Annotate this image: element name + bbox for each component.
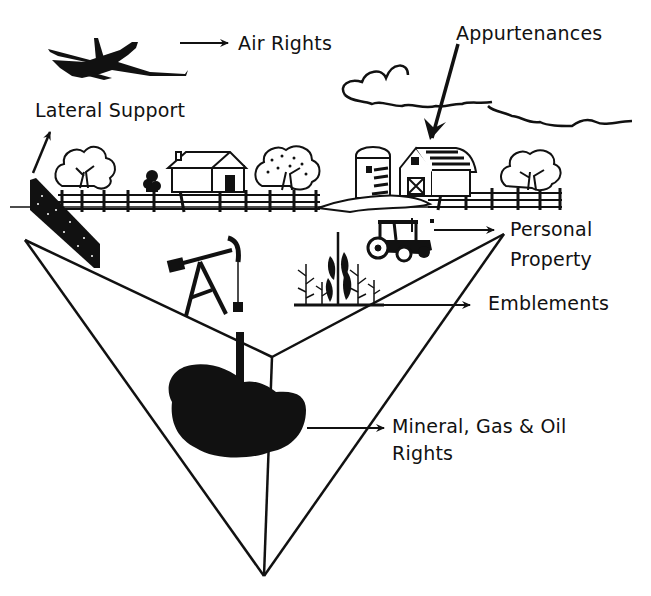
tractor-icon <box>368 218 434 261</box>
cloud-icon <box>343 66 632 126</box>
barn-icon <box>400 148 476 196</box>
oil-pump-jack-icon <box>167 238 243 316</box>
oil-pipe <box>236 332 244 382</box>
bush-icon <box>143 170 161 192</box>
house-icon <box>168 152 246 192</box>
lateral-support-arrow <box>33 132 50 173</box>
lateral-support-label: Lateral Support <box>35 98 185 122</box>
emblements-label: Emblements <box>488 291 609 315</box>
personal-property-label-line2: Property <box>510 247 592 271</box>
fence-icon <box>58 188 562 212</box>
retaining-wall-icon <box>30 178 100 268</box>
airplane-icon <box>48 38 188 80</box>
mineral-rights-label-line1: Mineral, Gas & Oil <box>392 414 567 438</box>
hill-shape <box>318 195 430 212</box>
mineral-rights-label-line2: Rights <box>392 441 453 465</box>
property-rights-diagram: Air Rights Appurtenances Lateral Support… <box>0 0 651 596</box>
tree-icon <box>501 150 561 190</box>
air-rights-label: Air Rights <box>238 31 332 55</box>
tree-icon <box>55 147 115 189</box>
oil-deposit-icon <box>169 364 306 457</box>
appurtenances-label: Appurtenances <box>456 21 602 45</box>
personal-property-label-line1: Personal <box>510 217 592 241</box>
appurtenances-arrow <box>432 44 458 138</box>
silo-icon <box>356 147 390 198</box>
tree-icon <box>255 146 319 190</box>
